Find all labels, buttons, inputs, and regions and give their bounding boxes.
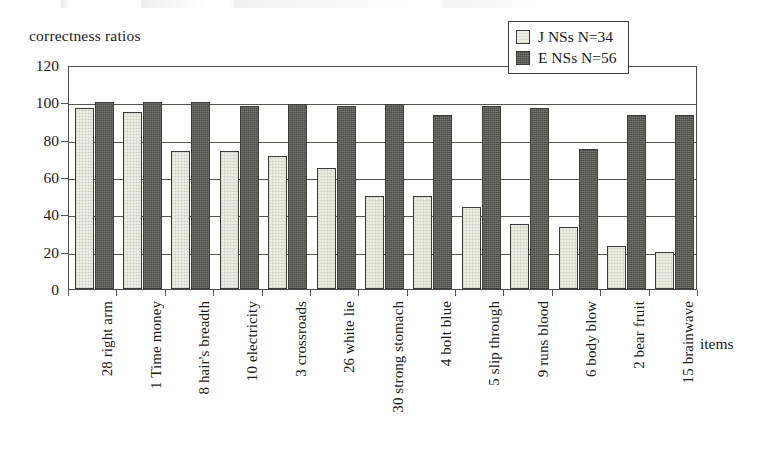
legend-item: J NSs N=34	[516, 26, 617, 47]
x-axis-tick-label: 8 hair's breadth	[196, 301, 213, 394]
bar-e-nss	[579, 149, 598, 289]
x-axis-tick-mark	[165, 290, 166, 296]
bar-j-nss	[75, 108, 94, 289]
y-axis-tick-mark	[61, 141, 68, 142]
chart-legend: J NSs N=34E NSs N=56	[508, 21, 629, 74]
bar-j-nss	[655, 252, 674, 289]
legend-label: J NSs N=34	[538, 28, 613, 46]
y-axis-tick-mark	[61, 215, 68, 216]
x-axis-tick-label: 10 electricity	[244, 301, 261, 381]
bar-j-nss	[268, 156, 287, 289]
y-axis-tick-label: 20	[44, 244, 60, 262]
bar-j-nss	[462, 207, 481, 289]
scan-artifact-strip	[0, 0, 783, 8]
x-axis-tick-label: 26 white lie	[341, 301, 358, 373]
y-axis-tick-mark	[61, 103, 68, 104]
x-axis-tick-label: 2 bear fruit	[631, 301, 648, 369]
bar-e-nss	[143, 102, 162, 289]
y-axis-tick-label: 0	[51, 281, 59, 299]
y-axis-tick-label: 60	[44, 169, 60, 187]
y-axis-tick-label: 120	[36, 57, 59, 75]
bar-j-nss	[220, 151, 239, 289]
bar-e-nss	[240, 106, 259, 289]
x-axis-tick-label: 3 crossroads	[293, 301, 310, 377]
bar-j-nss	[365, 196, 384, 289]
x-axis-tick-mark	[262, 290, 263, 296]
bar-e-nss	[530, 108, 549, 289]
bar-j-nss	[171, 151, 190, 289]
bar-e-nss	[385, 104, 404, 289]
y-axis-tick-label: 40	[44, 206, 60, 224]
bar-e-nss	[95, 102, 114, 289]
x-axis-tick-label: 1 Time money	[148, 301, 165, 389]
bar-e-nss	[627, 115, 646, 289]
x-axis-tick-mark	[358, 290, 359, 296]
x-axis-tick-label: 5 slip through	[486, 301, 503, 386]
y-axis-tick-label: 80	[44, 132, 60, 150]
bar-e-nss	[191, 102, 210, 289]
x-axis-tick-mark	[649, 290, 650, 296]
bar-e-nss	[482, 106, 501, 289]
legend-label: E NSs N=56	[538, 49, 617, 67]
bar-j-nss	[559, 227, 578, 289]
x-axis-tick-mark	[455, 290, 456, 296]
bar-j-nss	[317, 168, 336, 289]
y-axis-tick-mark	[61, 253, 68, 254]
x-axis-tick-mark	[310, 290, 311, 296]
y-axis-tick-mark	[61, 178, 68, 179]
bar-j-nss	[607, 246, 626, 289]
x-axis-tick-label: 30 strong stomach	[390, 301, 407, 413]
plot-area	[68, 66, 697, 290]
bar-e-nss	[433, 115, 452, 289]
x-axis-tick-label: 28 right arm	[99, 301, 116, 376]
x-axis-tick-label: 4 bolt blue	[438, 301, 455, 366]
x-axis-tick-mark	[68, 290, 69, 296]
y-axis-title: correctness ratios	[29, 27, 141, 45]
x-axis-tick-mark	[600, 290, 601, 296]
x-axis-tick-mark	[116, 290, 117, 296]
x-axis-tick-mark	[697, 290, 698, 296]
y-axis-tick-label: 100	[36, 94, 59, 112]
bar-j-nss	[123, 112, 142, 289]
x-axis-tick-label: 15 brainwave	[680, 301, 697, 383]
x-axis-tick-mark	[552, 290, 553, 296]
bar-e-nss	[337, 106, 356, 289]
bar-e-nss	[288, 104, 307, 289]
bar-e-nss	[675, 115, 694, 289]
legend-item: E NSs N=56	[516, 47, 617, 68]
x-axis-tick-label: 9 runs blood	[535, 301, 552, 377]
x-axis-tick-label: 6 body blow	[583, 301, 600, 377]
gridline	[69, 104, 696, 105]
gridline	[69, 179, 696, 180]
bar-j-nss	[510, 224, 529, 289]
x-axis-tick-mark	[213, 290, 214, 296]
legend-swatch-light	[516, 30, 530, 44]
gridline	[69, 142, 696, 143]
x-axis-tick-mark	[503, 290, 504, 296]
bar-j-nss	[413, 196, 432, 289]
x-axis-title: items	[700, 335, 734, 353]
x-axis-tick-mark	[407, 290, 408, 296]
legend-swatch-dark	[516, 51, 530, 65]
